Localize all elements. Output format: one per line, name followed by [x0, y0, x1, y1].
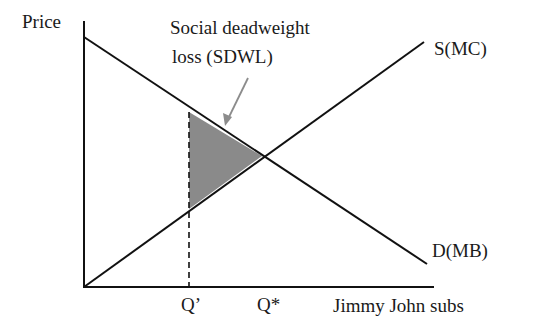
q-prime-label: Q’ [181, 294, 201, 315]
sdwl-shaded-area [189, 112, 262, 209]
supply-curve [84, 42, 424, 287]
annotation-line-2: loss (SDWL) [172, 46, 273, 68]
x-axis-label: Jimmy John subs [333, 295, 464, 316]
y-axis-label: Price [22, 11, 61, 32]
q-star-label: Q* [257, 294, 280, 315]
demand-curve [84, 37, 427, 264]
annotation-line-1: Social deadweight [170, 17, 311, 38]
sdwl-diagram: Price Social deadweight loss (SDWL) S(MC… [0, 0, 541, 334]
supply-label: S(MC) [434, 38, 487, 60]
demand-label: D(MB) [432, 240, 488, 262]
annotation-arrow-line [228, 78, 248, 119]
